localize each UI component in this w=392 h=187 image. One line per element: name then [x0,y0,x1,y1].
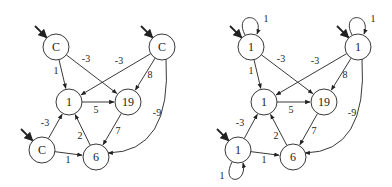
start-arrow-icon [217,129,229,141]
node-label: 1 [235,143,241,157]
edge-left-c-n1 [48,114,62,138]
edge-weight-label: -3 [236,117,244,128]
node-label: 1 [261,95,267,109]
self-loop-label: 1 [220,170,225,181]
node-label: 1 [66,95,72,109]
self-loop-edge [349,18,365,35]
edge-right-c-n1 [244,114,257,138]
edge-weight-label: 5 [94,104,99,115]
edge-weight-label: 1 [54,65,59,76]
node-label: 19 [318,95,330,109]
edge-weight-label: -3 [277,53,285,64]
edge-weight-label: 8 [343,69,348,80]
edge-weight-label: 5 [289,104,294,115]
self-loop-edge [229,162,244,179]
edge-weight-label: 1 [66,154,71,165]
edge-weight-label: 7 [312,125,317,136]
edge-weight-label: 2 [78,130,83,141]
start-arrow-icon [35,26,47,38]
edge-weight-label: 7 [116,125,121,136]
node-label: 6 [93,150,99,164]
edge-weight-label: -3 [115,55,123,66]
self-loop-label: 1 [371,13,376,24]
node-label: 1 [248,40,254,54]
node-label: 1 [355,40,361,54]
edge-weight-label: -3 [41,117,49,128]
start-arrow-icon [141,26,153,38]
start-arrow-icon [230,26,242,38]
node-label: C [38,143,46,157]
edge-right-a-n19 [261,55,312,94]
edge-weight-label: -3 [311,55,319,66]
edge-left-a-n19 [66,55,117,94]
self-loop-label: 1 [264,13,269,24]
edge-weight-label: -9 [153,107,161,118]
edge-right-b-n19 [331,58,351,90]
edge-weight-label: 1 [249,65,254,76]
graph-diagrams: CC119C61111916 1-3-38-9572-311-3-38-9572… [0,0,392,187]
diagram-canvas: CC119C61111916 1-3-38-9572-311-3-38-9572… [0,0,392,187]
nodes-layer: CC119C61111916 [29,34,371,170]
self-loop-edge [242,18,258,35]
start-arrow-icon [21,129,33,141]
edge-weight-label: 8 [148,69,153,80]
start-arrow-icon [337,26,349,38]
node-label: 19 [122,95,134,109]
edge-weight-label: 1 [262,154,267,165]
node-label: 6 [290,150,296,164]
edge-right-a-n1 [254,60,261,89]
edge-weight-label: -3 [82,53,90,64]
edge-weight-label: -9 [348,107,356,118]
edge-weight-label: 2 [274,130,279,141]
node-label: C [158,40,166,54]
edge-left-a-n1 [59,60,66,89]
node-label: C [52,40,60,54]
